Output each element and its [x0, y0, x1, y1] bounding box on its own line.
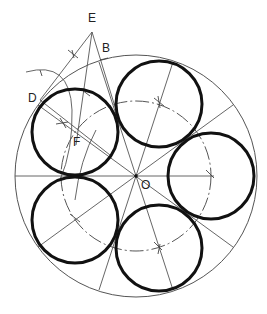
tick-marks [40, 50, 214, 254]
diagram-canvas: E B D F O [0, 0, 267, 314]
label-D: D [28, 91, 37, 105]
label-O: O [141, 178, 150, 192]
label-E: E [88, 11, 96, 25]
geometric-construction-diagram: E B D F O [0, 0, 267, 314]
label-F: F [73, 135, 80, 149]
label-B: B [102, 41, 110, 55]
center-point [134, 174, 138, 178]
